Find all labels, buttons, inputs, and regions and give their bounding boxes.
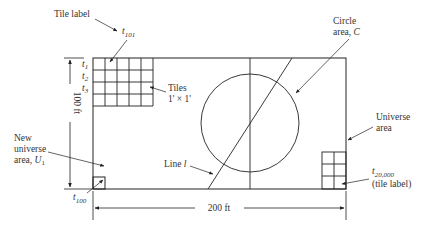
t101-arrow — [110, 40, 127, 62]
circle-arrow — [296, 39, 349, 93]
circle-label-line1: Circle — [333, 16, 356, 26]
tiles-arrow — [150, 87, 166, 92]
t101-label: t101 — [122, 26, 135, 39]
circle-label-line2: area, C — [333, 27, 361, 37]
new-universe-arrow — [48, 152, 104, 166]
line-l-arrow — [190, 166, 213, 174]
universe-label-line2: area — [376, 123, 393, 133]
universe-label-line1: Universe — [376, 112, 410, 122]
tile-grid-bottom-right — [322, 152, 346, 189]
t100-arrow — [87, 180, 103, 193]
tiles-label-line1: Tiles — [168, 83, 187, 93]
tiling-diagram: 100 ft 200 ft Tile label t101 t1 t2 t3 T… — [0, 0, 427, 233]
t20000-label: t20,000 — [372, 166, 394, 179]
t1-label: t1 — [82, 59, 88, 71]
tile-label-text: Tile label — [54, 9, 90, 19]
tiles-label-line2: 1' × 1' — [168, 94, 191, 104]
universe-rectangle — [93, 58, 346, 189]
height-label: 100 ft — [72, 92, 82, 115]
line-l-label: Line l — [164, 159, 187, 169]
t2-label: t2 — [82, 71, 89, 83]
new-universe-line3: area, U1 — [14, 155, 45, 167]
t20000-note: (tile label) — [372, 179, 411, 190]
t100-label: t100 — [73, 192, 87, 205]
tile-grid-top-left — [93, 58, 153, 106]
new-universe-line2: universe — [14, 144, 46, 154]
universe-arrow — [348, 127, 373, 140]
width-label: 200 ft — [208, 203, 231, 213]
tile-label-arrow — [95, 19, 117, 31]
new-universe-line1: New — [14, 133, 32, 143]
t3-label: t3 — [82, 83, 89, 95]
